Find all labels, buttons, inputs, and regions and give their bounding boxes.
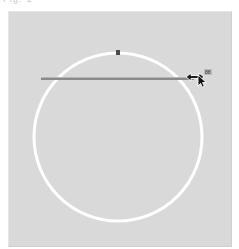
clipped-header-text: Fig. 1 [3,0,33,5]
canvas-vector-layer [9,12,232,247]
drawing-canvas[interactable] [8,11,232,247]
cursor-vector-layer [183,64,213,90]
drag-cursor-group[interactable] [183,64,213,90]
circle-top-handle[interactable] [116,50,120,55]
radius-value-tooltip: 88 [204,69,212,75]
clipped-header-text-strip: Fig. 1 [0,0,239,7]
